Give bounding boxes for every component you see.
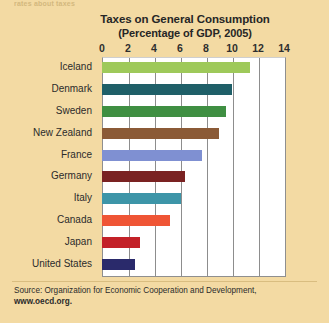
x-tick-label-6: 6 [170,42,190,54]
bar-row [102,62,285,73]
bar-row [102,259,285,270]
bar-japan [102,237,140,248]
category-axis-labels: IcelandDenmarkSwedenNew ZealandFranceGer… [0,57,98,275]
source-note-text: Source: Organization for Economic Cooper… [14,286,257,295]
bar-row [102,215,285,226]
chart-figure: Taxes on General Consumption (Percentage… [0,9,329,323]
category-label-canada: Canada [0,214,92,225]
category-label-italy: Italy [0,192,92,203]
chart-title-block: Taxes on General Consumption (Percentage… [60,12,310,40]
category-label-japan: Japan [0,236,92,247]
bar-row [102,150,285,161]
bar-row [102,106,285,117]
x-axis-tick-labels: 02468101214 [0,42,329,56]
x-tick-label-0: 0 [92,42,112,54]
category-label-france: France [0,149,92,160]
x-tick-label-4: 4 [144,42,164,54]
bar-united-states [102,259,135,270]
chart-title: Taxes on General Consumption [60,12,310,26]
source-divider [12,281,317,282]
source-url-link[interactable]: www.oecd.org. [14,296,314,307]
bar-row [102,237,285,248]
bar-row [102,128,285,139]
category-label-sweden: Sweden [0,105,92,116]
bar-row [102,193,285,204]
x-tick-label-8: 8 [196,42,216,54]
category-label-germany: Germany [0,170,92,181]
bars-layer [102,57,285,275]
x-tick-label-10: 10 [222,42,242,54]
bar-france [102,150,202,161]
bar-row [102,171,285,182]
x-tick-label-12: 12 [248,42,268,54]
page-top-text-fragment: rates about taxes [14,0,174,9]
bar-sweden [102,106,226,117]
bar-iceland [102,62,250,73]
x-tick-label-2: 2 [118,42,138,54]
category-label-new-zealand: New Zealand [0,127,92,138]
bar-row [102,84,285,95]
bar-italy [102,193,181,204]
bar-denmark [102,84,232,95]
bar-canada [102,215,170,226]
category-label-united-states: United States [0,258,92,269]
bar-germany [102,171,185,182]
category-label-iceland: Iceland [0,61,92,72]
x-tick-label-14: 14 [274,42,294,54]
chart-subtitle: (Percentage of GDP, 2005) [60,26,310,40]
bar-new-zealand [102,128,219,139]
source-note: Source: Organization for Economic Cooper… [14,285,314,307]
category-label-denmark: Denmark [0,83,92,94]
